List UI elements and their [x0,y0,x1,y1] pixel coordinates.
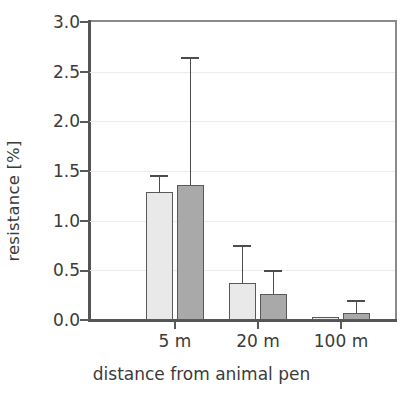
y-tick-label-2-0: 2.0 [34,111,80,131]
error-cap-dark-100m [347,300,365,302]
gridline-1-0 [90,221,395,222]
y-tick-label-1-0: 1.0 [34,211,80,231]
bar-light-100m [312,317,339,320]
y-tick-label-0-0: 0.0 [34,310,80,330]
x-axis-title: distance from animal pen [0,364,403,384]
y-tickmark-1-5 [80,170,89,172]
error-stem-light-20m [242,245,244,283]
gridline-2-0 [90,121,395,122]
y-tick-label-0-5: 0.5 [34,260,80,280]
bar-light-20m [229,283,256,320]
x-tick-label-5m: 5 m [159,331,192,351]
error-stem-dark-5m [190,57,192,185]
x-tickmark-100m [340,321,342,329]
y-tickmark-2-0 [80,121,89,123]
error-cap-dark-5m [181,57,199,59]
error-cap-dark-20m [264,270,282,272]
y-tickmark-0-0 [80,319,89,321]
y-tickmark-1-0 [80,220,89,222]
y-tick-label-3-0: 3.0 [34,12,80,32]
y-axis-tick-labels: 3.0 2.5 2.0 1.5 1.0 0.5 0.0 [34,0,80,402]
x-tickmark-20m [257,321,259,329]
error-stem-dark-20m [273,270,275,294]
bar-dark-20m [260,294,287,320]
y-tickmark-0-5 [80,270,89,272]
bar-dark-5m [177,185,204,320]
y-tick-label-2-5: 2.5 [34,62,80,82]
error-cap-light-5m [150,175,168,177]
y-tickmark-3-0 [80,21,89,23]
y-tickmark-2-5 [80,71,89,73]
error-stem-dark-100m [356,300,358,313]
error-cap-light-20m [233,245,251,247]
gridline-2-5 [90,72,395,73]
x-tickmark-5m [174,321,176,329]
y-axis-title: resistance [%] [0,0,26,402]
gridline-1-5 [90,171,395,172]
bar-dark-100m [343,313,370,320]
error-stem-light-5m [159,175,161,193]
x-tick-label-20m: 20 m [236,331,280,351]
y-tick-label-1-5: 1.5 [34,161,80,181]
plot-frame-right [395,20,397,322]
x-tick-label-100m: 100 m [314,331,368,351]
plot-frame-top [88,20,397,22]
bar-light-5m [146,192,173,320]
bar-chart-figure: resistance [%] 3.0 2.5 2.0 1.5 1.0 0.5 0… [0,0,403,402]
